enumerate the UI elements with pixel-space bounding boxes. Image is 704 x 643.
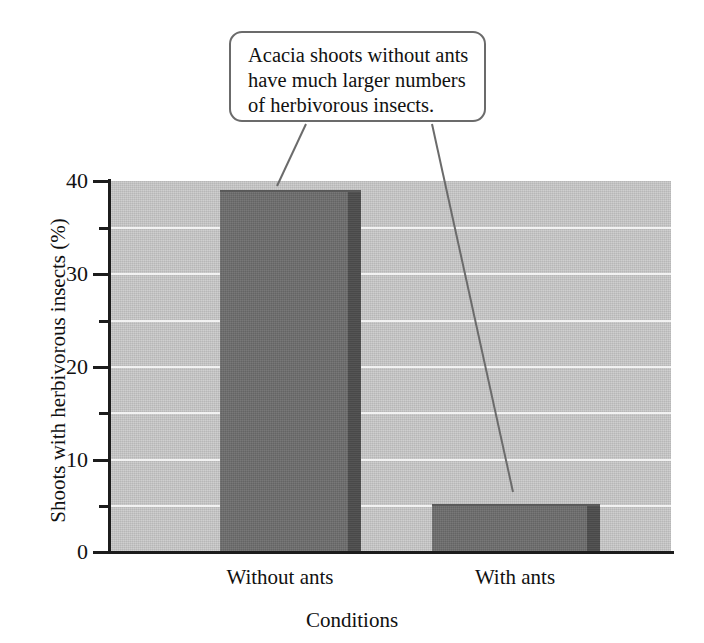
y-tick-0 (93, 551, 110, 554)
y-tick-30 (93, 273, 110, 276)
x-tick-label-with-ants: With ants (440, 565, 590, 589)
bar-side-face (587, 504, 600, 551)
y-axis-title: Shoots with herbivorous insects (%) (46, 171, 71, 571)
y-tick-25 (99, 320, 110, 323)
bar-front-face (432, 504, 600, 551)
y-tick-40 (93, 180, 110, 183)
gridline-35 (111, 227, 671, 229)
callout-line-1: Acacia shoots without ants (248, 43, 476, 68)
gridline-25 (111, 320, 671, 322)
gridline-30 (111, 273, 671, 275)
gridline-20 (111, 366, 671, 368)
x-axis-line (108, 551, 674, 554)
callout-box[interactable]: Acacia shoots without ants have much lar… (229, 31, 486, 122)
gridline-15 (111, 412, 671, 414)
y-tick-15 (99, 412, 110, 415)
y-tick-35 (99, 227, 110, 230)
x-axis-title: Conditions (0, 608, 704, 633)
y-tick-20 (93, 366, 110, 369)
bar-without-ants[interactable] (220, 190, 361, 551)
y-tick-5 (99, 505, 110, 508)
chart-figure: 40 30 20 10 0 Without ants With ants Con… (0, 0, 704, 643)
bar-front-face (220, 190, 361, 551)
y-tick-10 (93, 459, 110, 462)
bar-top-edge (220, 190, 361, 192)
gridline-10 (111, 459, 671, 461)
callout-line-2: have much larger numbers (248, 68, 476, 93)
callout-line-3: of herbivorous insects. (248, 93, 476, 118)
x-tick-label-without-ants: Without ants (190, 565, 370, 589)
callout-text: Acacia shoots without ants have much lar… (248, 43, 476, 118)
plot-area (111, 181, 671, 551)
bar-with-ants[interactable] (432, 504, 600, 551)
bar-side-face (348, 190, 361, 551)
bar-top-edge (432, 504, 600, 506)
